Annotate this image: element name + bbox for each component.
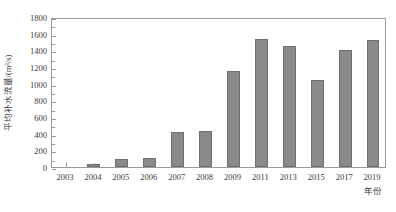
bar (311, 80, 324, 168)
x-axis-tick-label: 2003 (56, 172, 73, 182)
bar (339, 50, 352, 167)
y-axis-tick-mark (52, 119, 56, 120)
y-axis-minor-tick-mark (52, 27, 55, 28)
bar (227, 71, 240, 167)
x-axis-tick-label: 2011 (252, 172, 269, 182)
x-axis-tick-label: 2005 (112, 172, 129, 182)
x-axis-tick-mark (66, 163, 67, 167)
y-axis-tick-label: 1200 (3, 64, 47, 73)
chart-figure: 平均补水流量/(m³/s) 02004006008001000120014001… (0, 0, 396, 212)
y-axis-tick-mark (52, 69, 56, 70)
x-axis-tick-label: 2009 (224, 172, 241, 182)
y-axis-tick-label: 400 (3, 130, 47, 139)
y-axis-tick-label: 1400 (3, 47, 47, 56)
y-axis-minor-tick-mark (52, 161, 55, 162)
bar (255, 39, 268, 167)
y-axis-title: 平均补水流量/(m³/s) (0, 18, 14, 168)
bar (283, 46, 296, 167)
y-axis-tick-label: 1800 (3, 14, 47, 23)
y-axis-tick-mark (52, 152, 56, 153)
bar (171, 132, 184, 167)
y-axis-minor-tick-mark (52, 94, 55, 95)
y-axis-minor-tick-mark (52, 77, 55, 78)
y-axis-tick-label: 200 (3, 147, 47, 156)
x-axis-tick-label: 2004 (84, 172, 101, 182)
y-axis-minor-tick-mark (52, 127, 55, 128)
x-axis-title: 年份 (364, 184, 382, 196)
y-axis-tick-mark (52, 102, 56, 103)
x-axis-tick-label: 2013 (280, 172, 297, 182)
bar (115, 159, 128, 167)
x-axis-tick-label: 2015 (308, 172, 325, 182)
bar (367, 40, 380, 167)
x-axis-tick-label: 2006 (140, 172, 157, 182)
x-axis-tick-label: 2017 (336, 172, 353, 182)
bar (143, 158, 156, 167)
plot-area (51, 18, 386, 168)
y-axis-minor-tick-mark (52, 61, 55, 62)
y-axis-tick-label: 0 (3, 164, 47, 173)
y-axis-minor-tick-mark (52, 144, 55, 145)
y-axis-tick-mark (52, 136, 56, 137)
y-axis-tick-mark (52, 36, 56, 37)
y-axis-tick-label: 1600 (3, 30, 47, 39)
y-axis-tick-label: 600 (3, 114, 47, 123)
y-axis-minor-tick-mark (52, 111, 55, 112)
y-axis-tick-mark (52, 52, 56, 53)
x-axis-tick-label: 2019 (364, 172, 381, 182)
y-axis-minor-tick-mark (52, 44, 55, 45)
x-axis-tick-label: 2007 (168, 172, 185, 182)
y-axis-tick-mark (52, 19, 56, 20)
bar (199, 131, 212, 167)
y-axis-tick-mark (52, 169, 56, 170)
y-axis-tick-mark (52, 86, 56, 87)
bar (87, 164, 100, 167)
y-axis-tick-label: 800 (3, 97, 47, 106)
y-axis-tick-label: 1000 (3, 80, 47, 89)
x-axis-tick-label: 2008 (196, 172, 213, 182)
